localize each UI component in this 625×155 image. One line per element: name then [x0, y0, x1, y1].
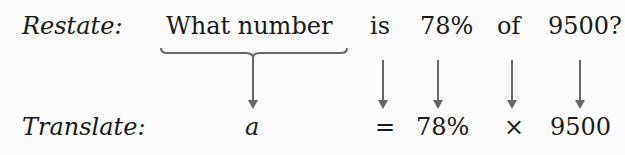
translate-label: Translate: [22, 113, 145, 141]
arrow-down-icon [433, 100, 443, 109]
translate-number: 9500 [550, 113, 611, 141]
arrow-down-icon [378, 100, 388, 109]
translate-variable: a [245, 113, 259, 141]
arrow-down-icon [507, 100, 517, 109]
translate-equals: = [375, 113, 395, 141]
arrow-down-icon [575, 100, 585, 109]
translate-times: × [504, 113, 524, 141]
arrow-down-icon [248, 100, 258, 109]
translate-percent: 78% [416, 113, 469, 141]
brace-icon [161, 48, 347, 58]
